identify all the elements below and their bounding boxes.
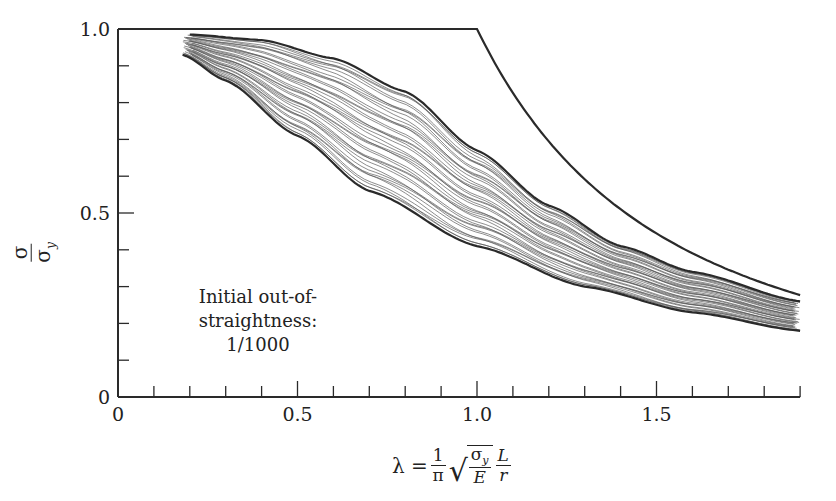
y-tick-label: 0 bbox=[98, 386, 110, 408]
annotation-line-2: 1/1000 bbox=[148, 333, 368, 357]
x-label-lambda: λ = bbox=[392, 454, 428, 478]
x-label-E: E bbox=[473, 467, 485, 487]
x-label-sigma: σ bbox=[471, 444, 483, 464]
y-axis-label: σ σy bbox=[8, 242, 57, 262]
y-label-numerator: σ bbox=[10, 244, 32, 262]
x-tick-label: 0.5 bbox=[282, 403, 312, 425]
x-label-L-over-r: L r bbox=[496, 447, 511, 484]
chart-canvas: 00.51.01.500.51.0 bbox=[0, 0, 836, 501]
x-label-frac-den: π bbox=[433, 466, 444, 484]
x-label-one-over-pi: 1 π bbox=[431, 447, 446, 484]
x-tick-label: 0 bbox=[112, 403, 124, 425]
sqrt-icon: √ bbox=[449, 456, 468, 486]
euler-curve bbox=[118, 29, 800, 295]
x-tick-label: 1.5 bbox=[641, 403, 671, 425]
y-label-denominator-subscript: y bbox=[44, 242, 58, 249]
y-tick-label: 0.5 bbox=[80, 202, 110, 224]
annotation-line-1: Initial out-of-straightness: bbox=[148, 285, 368, 333]
x-tick-label: 1.0 bbox=[462, 403, 492, 425]
band-curve bbox=[191, 38, 794, 306]
x-label-r: r bbox=[499, 465, 507, 485]
chart-annotation: Initial out-of-straightness: 1/1000 bbox=[148, 285, 368, 357]
x-label-frac-num: 1 bbox=[431, 447, 446, 466]
x-axis-label: λ = 1 π √ σy E L r bbox=[392, 445, 511, 486]
band-curve bbox=[190, 41, 793, 308]
y-label-denominator: σ bbox=[31, 249, 55, 263]
band-curve bbox=[193, 52, 796, 323]
y-tick-label: 1.0 bbox=[80, 18, 110, 40]
x-label-sqrt: √ σy E bbox=[449, 445, 493, 486]
x-label-L: L bbox=[498, 445, 509, 465]
x-label-sigma-sub: y bbox=[482, 454, 488, 467]
